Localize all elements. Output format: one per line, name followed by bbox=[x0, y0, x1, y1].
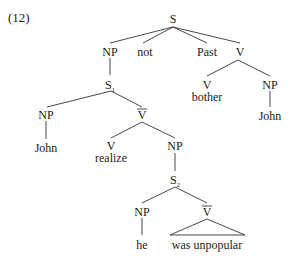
node-v-top: V bbox=[236, 45, 245, 59]
node-np-subject: NP bbox=[102, 45, 118, 59]
node-vbar-1: V bbox=[137, 108, 147, 122]
node-s2: S2 bbox=[170, 173, 181, 189]
svg-text:V: V bbox=[138, 108, 147, 122]
phrase-was-unpopular: was unpopular bbox=[172, 238, 242, 252]
word-he: he bbox=[136, 238, 147, 252]
node-np-he: NP bbox=[134, 205, 150, 219]
node-np-john: NP bbox=[38, 108, 54, 122]
word-john-subject: John bbox=[35, 141, 58, 155]
node-vbar-2: V bbox=[202, 205, 212, 219]
node-np-object: NP bbox=[262, 78, 278, 92]
syntax-tree: (12) S NP not Past V S1 V bother NP John… bbox=[0, 0, 291, 260]
svg-text:V: V bbox=[203, 205, 212, 219]
word-john-object: John bbox=[259, 109, 282, 123]
word-bother: bother bbox=[192, 90, 223, 104]
word-realize: realize bbox=[95, 151, 127, 165]
node-s1: S1 bbox=[105, 78, 116, 94]
node-past: Past bbox=[197, 45, 218, 59]
example-number: (12) bbox=[8, 10, 30, 25]
node-s: S bbox=[170, 12, 177, 26]
node-np-complement: NP bbox=[167, 139, 183, 153]
node-not: not bbox=[137, 45, 153, 59]
